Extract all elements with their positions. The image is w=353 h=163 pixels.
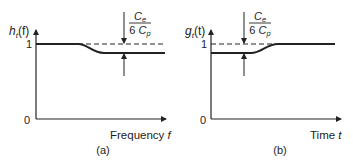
svg-text:Ce: Ce xyxy=(254,10,266,24)
svg-text:6 Cp: 6 Cp xyxy=(249,24,270,38)
x-axis-label: Frequency f xyxy=(110,129,173,141)
x-axis-label: Time t xyxy=(310,129,342,141)
annotation-fraction: Ce 6 Cp xyxy=(129,10,151,38)
annotation-fraction: Ce 6 Cp xyxy=(249,10,271,38)
panel-caption: (a) xyxy=(96,144,109,156)
svg-text:Ce: Ce xyxy=(134,10,146,24)
origin-label: 0 xyxy=(200,114,206,126)
response-curve xyxy=(36,44,165,53)
y-axis-label: gt(t) xyxy=(185,24,205,40)
panel-caption: (b) xyxy=(273,144,286,156)
panel-a: 1 0 ht(f) Frequency f (a) Ce 6 Cp xyxy=(9,10,173,156)
level-one-label: 1 xyxy=(201,38,207,50)
y-axis-label: ht(f) xyxy=(9,24,29,40)
diagram-canvas: 1 0 ht(f) Frequency f (a) Ce 6 Cp 1 0 gt… xyxy=(0,0,353,163)
response-curve xyxy=(211,44,335,53)
level-one-label: 1 xyxy=(26,38,32,50)
panel-b: 1 0 gt(t) Time t (b) Ce 6 Cp xyxy=(185,10,342,156)
origin-label: 0 xyxy=(24,114,30,126)
svg-text:6 Cp: 6 Cp xyxy=(129,24,150,38)
